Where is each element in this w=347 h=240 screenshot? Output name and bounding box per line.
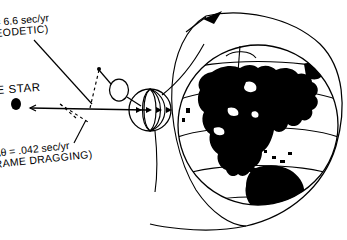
figure-canvas: = 6.6 sec/yr EODETIC) E STAR Δθ = .042 s… [0,0,347,240]
earth-globe-americas [175,45,341,230]
geodetic-leader-line [34,40,92,104]
guide-star-dot [11,98,21,110]
geodetic-drift-dashed-line [90,67,101,108]
frame-dragging-dashed-line [60,104,88,122]
diagram-artwork [0,0,347,240]
